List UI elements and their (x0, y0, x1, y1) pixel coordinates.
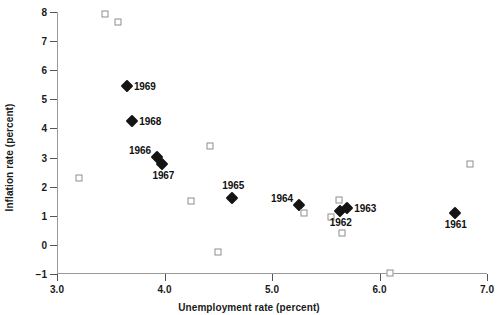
data-point-square (215, 249, 222, 256)
x-axis-title: Unemployment rate (percent) (0, 302, 498, 313)
y-tick-mark (50, 274, 57, 275)
y-tick-mark (50, 158, 57, 159)
data-point-diamond (121, 80, 134, 93)
y-tick-label: 1 (41, 210, 47, 221)
data-point-square (188, 197, 195, 204)
y-tick-label: 5 (41, 94, 47, 105)
x-tick-label: 7.0 (480, 284, 494, 295)
scatter-chart: Inflation rate (percent) 876543210−1 3.0… (0, 0, 498, 315)
x-tick-mark (165, 274, 166, 281)
data-point-square (387, 269, 394, 276)
data-point-square (102, 11, 109, 18)
y-tick-label: 4 (41, 123, 47, 134)
x-tick-label: 6.0 (373, 284, 387, 295)
data-point-square (338, 230, 345, 237)
data-point-label: 1969 (134, 81, 156, 92)
y-tick-mark (50, 70, 57, 71)
data-point-square (301, 209, 308, 216)
data-point-square (115, 19, 122, 26)
y-tick-label: 7 (41, 36, 47, 47)
x-tick-label: 4.0 (158, 284, 172, 295)
y-tick-label: 3 (41, 152, 47, 163)
data-point-diamond (126, 115, 139, 128)
y-tick-label: 0 (41, 239, 47, 250)
data-point-square (466, 160, 473, 167)
x-tick-mark (272, 274, 273, 281)
data-point-label: 1966 (129, 144, 151, 155)
x-tick-label: 5.0 (265, 284, 279, 295)
y-tick-label: 2 (41, 181, 47, 192)
x-tick-mark (57, 274, 58, 281)
y-tick-mark (50, 41, 57, 42)
x-tick-mark (380, 274, 381, 281)
y-axis-line (57, 12, 58, 274)
y-tick-mark (50, 128, 57, 129)
data-point-label: 1964 (271, 192, 293, 203)
y-tick-mark (50, 245, 57, 246)
data-point-square (206, 142, 213, 149)
data-point-label: 1965 (222, 180, 244, 191)
y-tick-mark (50, 216, 57, 217)
y-axis-title: Inflation rate (percent) (0, 0, 18, 315)
data-point-label: 1967 (152, 170, 174, 181)
x-tick-mark (487, 274, 488, 281)
data-point-label: 1961 (445, 219, 467, 230)
y-tick-label: −1 (36, 269, 47, 280)
plot-area: 876543210−1 3.04.05.06.07.0 196919681966… (57, 12, 487, 274)
data-point-label: 1962 (330, 217, 352, 228)
x-tick-label: 3.0 (50, 284, 64, 295)
data-point-label: 1968 (139, 116, 161, 127)
data-point-square (335, 197, 342, 204)
data-point-square (75, 174, 82, 181)
y-tick-mark (50, 99, 57, 100)
data-point-diamond (226, 192, 239, 205)
y-tick-mark (50, 12, 57, 13)
y-tick-label: 6 (41, 65, 47, 76)
y-tick-mark (50, 187, 57, 188)
y-tick-label: 8 (41, 7, 47, 18)
data-point-label: 1963 (354, 202, 376, 213)
data-point-diamond (448, 206, 461, 219)
